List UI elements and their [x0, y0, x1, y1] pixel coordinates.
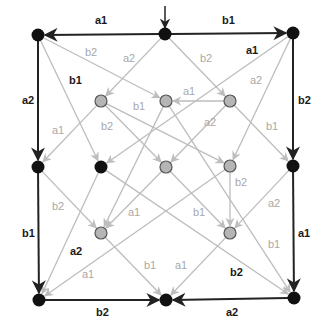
edge-label: a2 [268, 197, 280, 209]
edge-n3-n6 [38, 173, 39, 293]
edge-n1-n0 [45, 34, 159, 35]
node-n4 [95, 161, 108, 174]
edge-label: b1 [266, 120, 278, 132]
edge-label: b2 [96, 306, 109, 318]
edge-g3-n5 [234, 105, 288, 161]
edge-n2-g5 [233, 38, 290, 159]
edge-label: b1 [22, 227, 35, 239]
edge-g3-g4 [171, 105, 226, 162]
edge-label: a1 [183, 85, 195, 97]
edge-label: b1 [69, 74, 82, 86]
node-n2 [287, 27, 300, 40]
node-n0 [32, 29, 45, 42]
edge-label: a2 [123, 52, 135, 64]
edge-n0-g2 [43, 38, 159, 98]
edge-n8-n7 [173, 298, 288, 300]
edge-label: a1 [128, 206, 140, 218]
edge-label: b2 [235, 176, 247, 188]
edge-label: a2 [204, 116, 216, 128]
edge-n1-n2 [171, 33, 286, 34]
edge-label: b1 [144, 259, 156, 271]
node-g2 [160, 95, 172, 107]
nodes [32, 27, 301, 307]
node-n8 [288, 292, 301, 305]
edge-label: b2 [200, 52, 212, 64]
edge-g1-g5 [106, 104, 223, 163]
edge-label: b2 [101, 120, 113, 132]
edge-label: a1 [82, 268, 94, 280]
edge-label: b1 [268, 238, 280, 250]
node-g5 [224, 160, 236, 172]
edge-label: a2 [22, 94, 34, 106]
edge-label: a1 [95, 14, 107, 26]
node-n6 [33, 294, 46, 307]
edge-label: b1 [193, 206, 205, 218]
node-n3 [32, 161, 45, 174]
edge-label: b1 [133, 100, 145, 112]
edge-label: a1 [52, 124, 64, 136]
node-n1 [159, 28, 172, 41]
node-g6 [95, 227, 107, 239]
edge-n3-g6 [42, 171, 96, 228]
edge-label: b2 [85, 46, 97, 58]
edge-label: a2 [70, 245, 82, 257]
node-n5 [287, 160, 300, 173]
edge-label: b2 [52, 200, 64, 212]
edge-label: b2 [298, 94, 311, 106]
edge-n1-g1 [106, 38, 161, 96]
node-g3 [224, 95, 236, 107]
edge-label: b2 [230, 266, 243, 278]
edge-n5-n8 [293, 172, 294, 291]
edge-label: a1 [298, 227, 310, 239]
node-g1 [95, 95, 107, 107]
edge-g1-g4 [105, 105, 161, 162]
edge-label: a2 [250, 74, 262, 86]
edge-n1-g3 [169, 38, 225, 96]
edge-n0-n4 [41, 40, 98, 160]
edge-label: b1 [222, 14, 235, 26]
edge-g1-n3 [43, 105, 97, 162]
edge-label: a1 [246, 44, 258, 56]
node-g7 [224, 227, 236, 239]
state-diagram: a1b1a2b2b1a1b2a2b1a1a2b2a2b2b2a2a1a2b1a1… [0, 0, 324, 335]
edge-label: a1 [175, 259, 187, 271]
edge-label: a2 [226, 306, 238, 318]
node-g4 [160, 161, 172, 173]
node-n7 [160, 294, 173, 307]
